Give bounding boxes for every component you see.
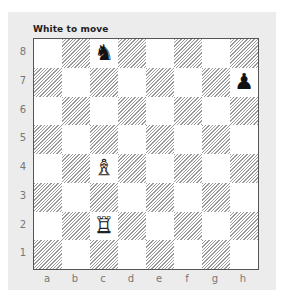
rank-label-2: 2 <box>18 219 28 230</box>
square-c6[interactable] <box>90 97 118 126</box>
square-a3[interactable] <box>34 183 62 212</box>
square-f2[interactable] <box>174 212 202 241</box>
square-f8[interactable] <box>174 39 202 68</box>
square-a6[interactable] <box>34 97 62 126</box>
rank-label-6: 6 <box>18 104 28 115</box>
square-a4[interactable] <box>34 154 62 183</box>
rank-label-8: 8 <box>18 46 28 57</box>
black-knight-icon[interactable]: ♞ <box>94 42 114 64</box>
square-c2[interactable]: ♖ <box>90 212 118 241</box>
square-e3[interactable] <box>146 183 174 212</box>
square-c8[interactable]: ♞ <box>90 39 118 68</box>
white-bishop-icon[interactable]: ♗ <box>94 157 114 179</box>
chess-board: ♞♟♗♖ <box>33 38 259 270</box>
file-label-b: b <box>61 273 89 284</box>
square-a5[interactable] <box>34 125 62 154</box>
square-h2[interactable] <box>230 212 258 241</box>
square-d1[interactable] <box>118 240 146 269</box>
square-g7[interactable] <box>202 68 230 97</box>
square-c1[interactable] <box>90 240 118 269</box>
square-f5[interactable] <box>174 125 202 154</box>
rank-label-3: 3 <box>18 190 28 201</box>
square-e1[interactable] <box>146 240 174 269</box>
square-a2[interactable] <box>34 212 62 241</box>
square-b1[interactable] <box>62 240 90 269</box>
side-to-move-label: White to move <box>33 24 108 34</box>
file-label-d: d <box>117 273 145 284</box>
square-d5[interactable] <box>118 125 146 154</box>
square-b7[interactable] <box>62 68 90 97</box>
white-rook-icon[interactable]: ♖ <box>94 215 114 237</box>
square-b3[interactable] <box>62 183 90 212</box>
square-b4[interactable] <box>62 154 90 183</box>
square-g3[interactable] <box>202 183 230 212</box>
square-c7[interactable] <box>90 68 118 97</box>
square-d2[interactable] <box>118 212 146 241</box>
square-e5[interactable] <box>146 125 174 154</box>
rank-label-4: 4 <box>18 161 28 172</box>
square-d3[interactable] <box>118 183 146 212</box>
square-g1[interactable] <box>202 240 230 269</box>
square-b2[interactable] <box>62 212 90 241</box>
file-label-f: f <box>173 273 201 284</box>
square-h1[interactable] <box>230 240 258 269</box>
rank-label-1: 1 <box>18 247 28 258</box>
square-b6[interactable] <box>62 97 90 126</box>
black-pawn-icon[interactable]: ♟ <box>234 71 254 93</box>
square-d8[interactable] <box>118 39 146 68</box>
square-f7[interactable] <box>174 68 202 97</box>
square-e8[interactable] <box>146 39 174 68</box>
square-h5[interactable] <box>230 125 258 154</box>
square-e7[interactable] <box>146 68 174 97</box>
square-a7[interactable] <box>34 68 62 97</box>
square-d4[interactable] <box>118 154 146 183</box>
square-h7[interactable]: ♟ <box>230 68 258 97</box>
square-a1[interactable] <box>34 240 62 269</box>
square-c4[interactable]: ♗ <box>90 154 118 183</box>
square-h8[interactable] <box>230 39 258 68</box>
square-g2[interactable] <box>202 212 230 241</box>
square-g8[interactable] <box>202 39 230 68</box>
square-g6[interactable] <box>202 97 230 126</box>
square-h4[interactable] <box>230 154 258 183</box>
square-d6[interactable] <box>118 97 146 126</box>
square-d7[interactable] <box>118 68 146 97</box>
square-e4[interactable] <box>146 154 174 183</box>
square-c3[interactable] <box>90 183 118 212</box>
rank-label-7: 7 <box>18 75 28 86</box>
file-label-a: a <box>33 273 61 284</box>
square-b5[interactable] <box>62 125 90 154</box>
square-f1[interactable] <box>174 240 202 269</box>
file-label-g: g <box>201 273 229 284</box>
rank-label-5: 5 <box>18 132 28 143</box>
square-b8[interactable] <box>62 39 90 68</box>
file-label-h: h <box>229 273 257 284</box>
square-f4[interactable] <box>174 154 202 183</box>
file-label-c: c <box>89 273 117 284</box>
square-a8[interactable] <box>34 39 62 68</box>
square-f3[interactable] <box>174 183 202 212</box>
square-e6[interactable] <box>146 97 174 126</box>
square-h6[interactable] <box>230 97 258 126</box>
square-h3[interactable] <box>230 183 258 212</box>
square-c5[interactable] <box>90 125 118 154</box>
square-g4[interactable] <box>202 154 230 183</box>
square-g5[interactable] <box>202 125 230 154</box>
square-f6[interactable] <box>174 97 202 126</box>
file-label-e: e <box>145 273 173 284</box>
square-e2[interactable] <box>146 212 174 241</box>
